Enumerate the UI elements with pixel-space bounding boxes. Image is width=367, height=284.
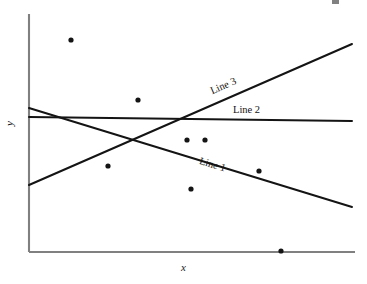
scatter-point xyxy=(105,163,110,168)
y-axis-label: y xyxy=(4,121,15,126)
scatter-points-group xyxy=(68,37,283,253)
plot-canvas xyxy=(0,0,367,284)
scatter-point xyxy=(256,168,261,173)
series-line-3 xyxy=(29,44,352,185)
series-line-1 xyxy=(29,108,352,207)
x-axis-label: x xyxy=(0,262,367,273)
scatter-point xyxy=(278,248,283,253)
axis-frame xyxy=(29,14,355,252)
series-line-2 xyxy=(29,117,352,121)
scatter-point xyxy=(202,137,207,142)
scatter-plot-figure: Line 1 Line 2 Line 3 x y xyxy=(0,0,367,284)
series-label-line-2: Line 2 xyxy=(233,105,260,116)
scatter-point xyxy=(184,137,189,142)
scan-artifact xyxy=(332,0,339,4)
scatter-point xyxy=(188,186,193,191)
scatter-point xyxy=(135,97,140,102)
scatter-point xyxy=(68,37,73,42)
fitted-lines-group xyxy=(29,44,352,207)
